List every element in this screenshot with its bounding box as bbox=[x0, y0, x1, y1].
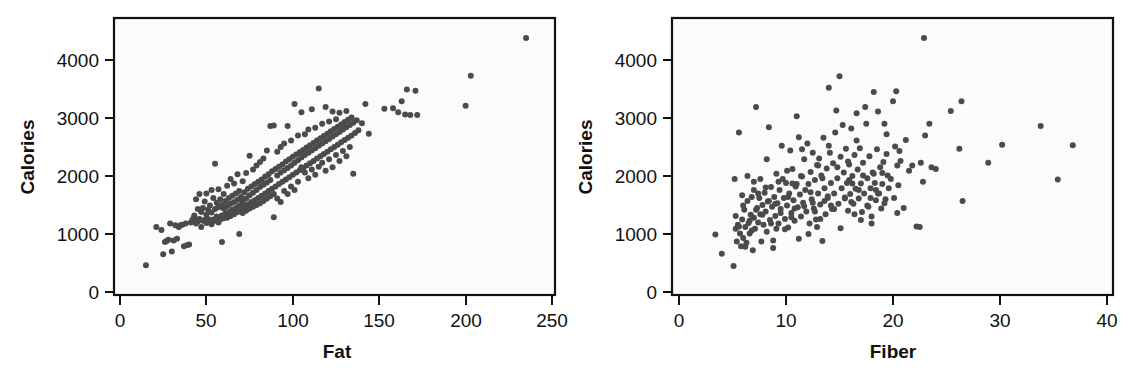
panel-calories-vs-fiber: 4000 3000 2000 1000 0 0 10 20 30 40 Fibe bbox=[566, 0, 1133, 378]
data-point bbox=[764, 156, 770, 162]
data-point bbox=[847, 191, 853, 197]
data-point bbox=[407, 112, 413, 118]
data-point bbox=[323, 168, 329, 174]
data-point bbox=[817, 216, 823, 222]
data-point bbox=[347, 144, 353, 150]
data-point bbox=[395, 109, 401, 115]
data-point bbox=[801, 156, 807, 162]
data-point bbox=[918, 160, 924, 166]
data-point bbox=[815, 190, 821, 196]
plot-area-fat: 4000 3000 2000 1000 0 0 50 100 150 200 bbox=[0, 0, 566, 378]
data-point bbox=[788, 214, 794, 220]
data-point bbox=[198, 224, 204, 230]
data-point bbox=[797, 192, 803, 198]
data-point bbox=[859, 209, 865, 215]
data-point bbox=[860, 160, 866, 166]
x-ticklabel-40: 40 bbox=[1096, 310, 1117, 331]
data-point bbox=[768, 221, 774, 227]
data-point bbox=[736, 223, 742, 229]
data-point bbox=[330, 109, 336, 115]
data-point bbox=[851, 152, 857, 158]
y-axis-ticklabels-fiber: 4000 3000 2000 1000 0 bbox=[615, 50, 657, 303]
data-point bbox=[812, 208, 818, 214]
data-point bbox=[803, 208, 809, 214]
data-point bbox=[890, 98, 896, 104]
data-point bbox=[848, 125, 854, 131]
data-point bbox=[831, 206, 837, 212]
data-point bbox=[761, 222, 767, 228]
data-point bbox=[740, 203, 746, 209]
data-point bbox=[354, 117, 360, 123]
data-point bbox=[798, 214, 804, 220]
data-point bbox=[866, 153, 872, 159]
data-point bbox=[862, 104, 868, 110]
data-point bbox=[158, 227, 164, 233]
data-point bbox=[920, 179, 926, 185]
data-point bbox=[810, 200, 816, 206]
data-point bbox=[776, 221, 782, 227]
x-ticklabel-200: 200 bbox=[450, 310, 482, 331]
data-point bbox=[886, 185, 892, 191]
data-point bbox=[160, 251, 166, 257]
data-point bbox=[772, 201, 778, 207]
data-point bbox=[755, 219, 761, 225]
data-point bbox=[985, 160, 991, 166]
data-point bbox=[209, 187, 215, 193]
data-point bbox=[785, 194, 791, 200]
data-point bbox=[789, 166, 795, 172]
y-ticklabel-2000: 2000 bbox=[615, 166, 657, 187]
data-point bbox=[827, 150, 833, 156]
data-point bbox=[186, 241, 192, 247]
data-point bbox=[831, 190, 837, 196]
data-point bbox=[820, 135, 826, 141]
data-point bbox=[812, 177, 818, 183]
data-point bbox=[240, 178, 246, 184]
data-point bbox=[903, 137, 909, 143]
data-point bbox=[843, 146, 849, 152]
data-point bbox=[894, 210, 900, 216]
data-point bbox=[863, 121, 869, 127]
data-point bbox=[749, 228, 755, 234]
data-point bbox=[784, 168, 790, 174]
data-point bbox=[794, 113, 800, 119]
data-point bbox=[753, 207, 759, 213]
data-point bbox=[845, 159, 851, 165]
data-point bbox=[712, 232, 718, 238]
data-point bbox=[848, 199, 854, 205]
data-point bbox=[271, 123, 277, 129]
data-point bbox=[814, 224, 820, 230]
y-ticklabel-1000: 1000 bbox=[57, 224, 99, 245]
data-point bbox=[744, 173, 750, 179]
data-point bbox=[874, 146, 880, 152]
y-axis-ticklabels-fat: 4000 3000 2000 1000 0 bbox=[57, 50, 99, 303]
data-point bbox=[349, 114, 355, 120]
data-point bbox=[877, 164, 883, 170]
data-point bbox=[838, 154, 844, 160]
data-point bbox=[856, 187, 862, 193]
data-point bbox=[875, 109, 881, 115]
data-point bbox=[285, 123, 291, 129]
data-point bbox=[302, 170, 308, 176]
data-point bbox=[807, 221, 813, 227]
data-point bbox=[750, 247, 756, 253]
data-point bbox=[183, 221, 189, 227]
data-point bbox=[857, 145, 863, 151]
data-point bbox=[326, 156, 332, 162]
data-point bbox=[732, 176, 738, 182]
data-point bbox=[463, 103, 469, 109]
y-ticklabel-4000: 4000 bbox=[615, 50, 657, 71]
data-point bbox=[801, 203, 807, 209]
data-point bbox=[404, 87, 410, 93]
data-point bbox=[267, 177, 273, 183]
data-point bbox=[868, 195, 874, 201]
data-point bbox=[203, 190, 209, 196]
data-point bbox=[819, 175, 825, 181]
data-point bbox=[362, 101, 368, 107]
data-point bbox=[412, 88, 418, 94]
data-point bbox=[845, 208, 851, 214]
data-point bbox=[235, 171, 241, 177]
data-point bbox=[810, 150, 816, 156]
data-point bbox=[834, 164, 840, 170]
data-point bbox=[739, 217, 745, 223]
data-point bbox=[757, 176, 763, 182]
